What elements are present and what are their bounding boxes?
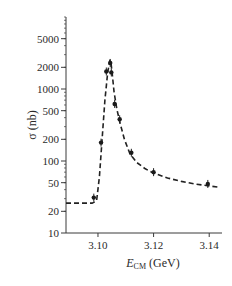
fit-dashed-line (66, 60, 220, 203)
y-tick-label: 100 (43, 155, 60, 167)
data-point (92, 195, 96, 199)
data-point (206, 182, 210, 186)
x-axis-title: ECM (GeV) (125, 256, 179, 271)
x-tick-label: 3.12 (144, 239, 163, 251)
y-tick-label: 20 (48, 205, 60, 217)
cross-section-chart: 1020501002005001000200050003.103.123.14 … (0, 0, 232, 286)
y-tick-label: 10 (48, 227, 60, 239)
data-point (109, 70, 113, 74)
y-tick-label: 500 (43, 105, 60, 117)
data-points (92, 59, 210, 202)
axes: 1020501002005001000200050003.103.123.14 (37, 17, 222, 251)
data-point (112, 102, 116, 106)
data-point (99, 140, 103, 144)
data-point (108, 61, 112, 65)
y-tick-label: 2000 (37, 61, 60, 73)
data-point (117, 117, 121, 121)
data-point (129, 151, 133, 155)
y-tick-label: 5000 (37, 33, 60, 45)
y-tick-label: 50 (48, 177, 60, 189)
y-axis-title: σ (nb) (25, 110, 39, 139)
x-tick-label: 3.14 (200, 239, 220, 251)
data-point (151, 170, 155, 174)
fit-curve (66, 60, 220, 203)
x-tick-label: 3.10 (88, 239, 108, 251)
data-point (104, 69, 108, 73)
y-tick-label: 1000 (37, 83, 60, 95)
y-tick-label: 200 (43, 133, 60, 145)
